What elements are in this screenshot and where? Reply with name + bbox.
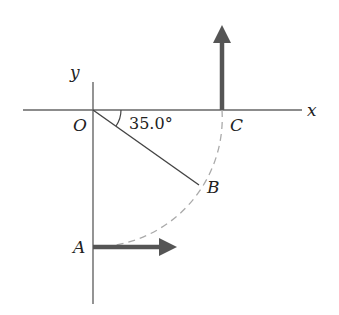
point-b-label: B [206, 177, 220, 197]
diagram-canvas: y x O C B A 35.0° [0, 0, 339, 315]
angle-arc [116, 110, 121, 126]
y-axis-label: y [69, 62, 80, 82]
point-c-label: C [230, 115, 243, 135]
angle-label: 35.0° [129, 114, 173, 133]
point-a-label: A [71, 237, 85, 257]
origin-label: O [73, 115, 87, 135]
x-axis-label: x [307, 100, 317, 120]
